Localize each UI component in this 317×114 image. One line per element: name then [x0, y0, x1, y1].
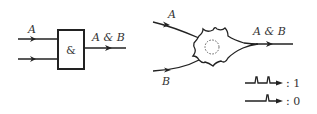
- gate-input-a-line: [18, 36, 58, 42]
- neuron-input-b-label: B: [161, 75, 170, 88]
- and-gate-neuron-diagram: A & A & B A B A & B: [0, 0, 317, 114]
- legend-item-0: : 0: [245, 95, 300, 108]
- neuron-input-a-label: A: [167, 8, 176, 21]
- neuron-output-label: A & B: [252, 25, 286, 38]
- gate-output-label: A & B: [91, 31, 125, 44]
- dendrite-a: [153, 22, 199, 38]
- logic-gate-group: A & A & B: [18, 23, 126, 69]
- dendrite-b: [153, 60, 199, 71]
- arrow-icon: [276, 99, 283, 104]
- legend-label-1: : 1: [286, 77, 300, 90]
- legend-label-0: : 0: [286, 95, 300, 108]
- single-pulse-signal: [245, 95, 278, 101]
- gate-input-b-line: [18, 56, 58, 62]
- gate-input-a-label: A: [27, 23, 36, 36]
- neuron-group: A B A & B: [153, 8, 293, 88]
- legend-item-1: : 1: [245, 77, 300, 90]
- neuron-soma: [193, 28, 258, 66]
- double-pulse-signal: [245, 77, 278, 83]
- gate-output-line: [85, 45, 126, 51]
- arrow-icon: [276, 81, 283, 86]
- and-gate-symbol: &: [66, 44, 76, 57]
- legend-group: : 1 : 0: [245, 77, 300, 108]
